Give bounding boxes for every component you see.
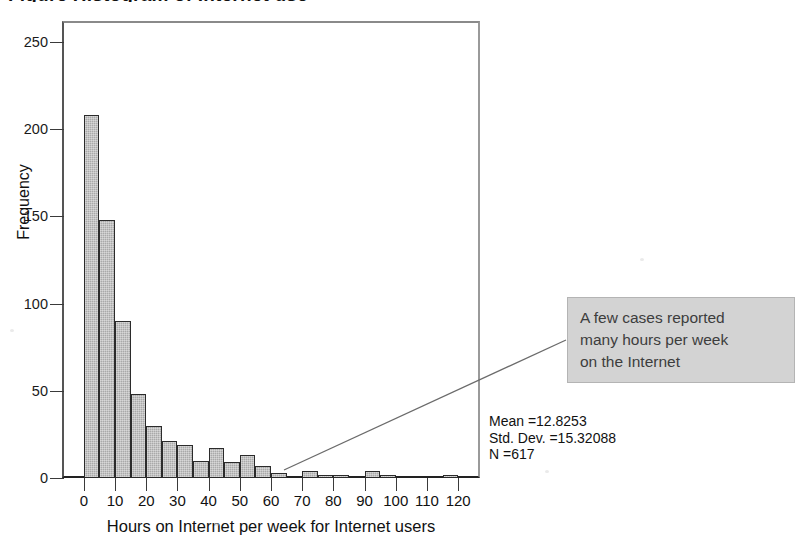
scan-speckle [214, 523, 219, 526]
histogram-bar [333, 475, 349, 478]
histogram-bars [62, 21, 480, 478]
histogram-bar [318, 475, 334, 478]
histogram-figure: Figure Histogram of Internet use 0501001… [0, 0, 803, 548]
summary-statistics: Mean =12.8253 Std. Dev. =15.32088 N =617 [489, 413, 616, 463]
x-axis-tick [240, 478, 241, 491]
histogram-bar [84, 115, 100, 478]
x-axis-tick [115, 478, 116, 491]
y-axis-tick-label: 0 [0, 470, 48, 486]
clipped-figure-title: Figure Histogram of Internet use [8, 0, 428, 2]
histogram-bar [131, 394, 147, 478]
y-axis-title: Frequency [15, 127, 33, 277]
histogram-bar [99, 220, 115, 478]
histogram-bar [255, 466, 271, 478]
histogram-bar [115, 321, 131, 478]
scan-speckle [640, 258, 644, 261]
x-axis-tick [209, 478, 210, 491]
histogram-bar [177, 445, 193, 478]
x-axis-tick [271, 478, 272, 491]
x-axis-tick [84, 478, 85, 491]
x-axis-tick [396, 478, 397, 491]
y-axis-tick-label: 50 [0, 383, 48, 399]
y-axis-tick [50, 216, 64, 217]
callout-text: A few cases reported many hours per week… [580, 307, 788, 373]
y-axis-tick-label: 250 [0, 34, 48, 50]
x-axis-tick [427, 478, 428, 491]
x-axis-tick [365, 478, 366, 491]
histogram-bar [209, 448, 225, 478]
scan-speckle [545, 470, 549, 473]
histogram-bar [240, 455, 256, 478]
histogram-bar [443, 475, 459, 478]
y-axis-tick [50, 129, 64, 130]
x-axis-tick [146, 478, 147, 491]
y-axis-tick-label: 100 [0, 296, 48, 312]
x-axis-tick [458, 478, 459, 491]
histogram-bar [224, 462, 240, 478]
callout-box: A few cases reported many hours per week… [567, 297, 795, 383]
y-axis-tick [50, 42, 64, 43]
histogram-bar [193, 461, 209, 478]
histogram-bar [302, 471, 318, 478]
x-axis-title: Hours on Internet per week for Internet … [34, 517, 508, 536]
y-axis-tick [50, 478, 64, 479]
x-axis-tick-label: 120 [435, 492, 481, 509]
histogram-bar [380, 475, 396, 478]
x-axis-tick [177, 478, 178, 491]
y-axis-tick [50, 391, 64, 392]
histogram-bar [365, 471, 381, 478]
histogram-bar [146, 426, 162, 478]
y-axis-tick [50, 304, 64, 305]
histogram-bar [271, 473, 287, 478]
scan-speckle [10, 329, 14, 332]
histogram-bar [162, 441, 178, 478]
x-axis-tick [333, 478, 334, 491]
x-axis-tick [302, 478, 303, 491]
